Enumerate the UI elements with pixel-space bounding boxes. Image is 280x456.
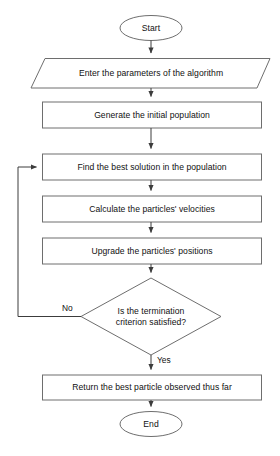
node-start-label: Start [121,23,181,34]
node-decision-label: Is the termination criterion satisfied? [91,306,211,327]
node-input-label: Enter the parameters of the algorithm [46,68,256,79]
node-init-label: Generate the initial population [45,110,259,121]
node-return-label: Return the best particle observed thus f… [45,382,259,393]
node-findbest-label: Find the best solution in the population [45,162,259,173]
node-velocities-label: Calculate the particles' velocities [45,204,259,215]
node-end-label: End [121,419,181,430]
edge-label-yes: Yes [157,355,171,365]
edge-label-no: No [62,303,73,313]
bottom-caption [0,444,280,456]
node-positions-label: Upgrade the particles' positions [45,246,259,257]
